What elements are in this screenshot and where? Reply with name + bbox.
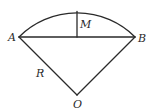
- label-m: M: [79, 18, 92, 31]
- sector-diagram: A B M O R: [0, 0, 149, 111]
- label-r: R: [35, 67, 44, 80]
- label-b: B: [137, 32, 146, 45]
- label-o: O: [73, 98, 82, 111]
- label-a: A: [7, 31, 16, 44]
- radius-ob: [77, 37, 135, 95]
- radius-oa: [19, 37, 77, 95]
